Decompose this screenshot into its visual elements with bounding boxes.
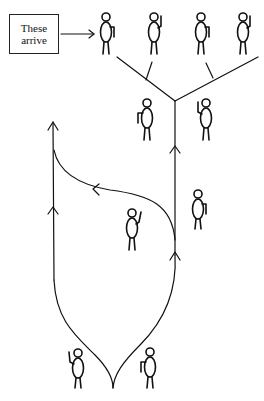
return-curve <box>54 150 175 240</box>
merge-tree <box>117 57 258 101</box>
flow-diagram <box>0 0 264 401</box>
left-path <box>48 122 58 280</box>
person-figure-middle-right <box>193 190 207 229</box>
person-figure-bottom-left <box>69 349 84 388</box>
person-figure-arriving-4 <box>238 13 251 54</box>
person-figure-waiting-right <box>198 99 212 140</box>
person-figure-arriving-2 <box>149 13 162 54</box>
arrive-arrow <box>61 30 94 38</box>
person-figure-arriving-1 <box>101 13 115 54</box>
person-figure-bottom-right <box>141 348 156 388</box>
person-figure-middle-center <box>127 209 142 250</box>
person-figure-waiting-left <box>138 99 153 140</box>
person-figure-arriving-3 <box>196 13 210 54</box>
